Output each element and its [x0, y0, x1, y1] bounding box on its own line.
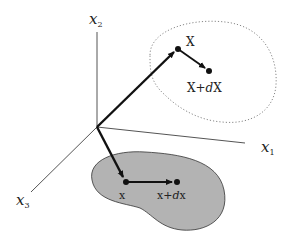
point-X-plus-dX — [206, 68, 212, 74]
x2-axis-label: x2 — [89, 10, 103, 29]
reference-configuration-region — [150, 21, 276, 122]
x3-axis-label: x3 — [16, 191, 30, 210]
point-x-plus-dx — [174, 179, 180, 185]
x1-axis-label: x1 — [261, 138, 275, 157]
point-x-plus-dx-label: x+dx — [157, 189, 186, 202]
point-x-label: x — [119, 189, 126, 202]
continuum-deformation-diagram: x2 x1 x3 X X+dX x x+dx — [0, 0, 290, 241]
point-X-label: X — [186, 35, 195, 49]
line-element-dX — [178, 49, 205, 68]
x3-axis — [31, 127, 97, 192]
point-X — [175, 46, 181, 52]
x1-axis — [97, 127, 245, 143]
point-x — [123, 179, 129, 185]
point-X-plus-dX-label: X+dX — [187, 81, 222, 95]
position-vector-X — [97, 52, 174, 127]
